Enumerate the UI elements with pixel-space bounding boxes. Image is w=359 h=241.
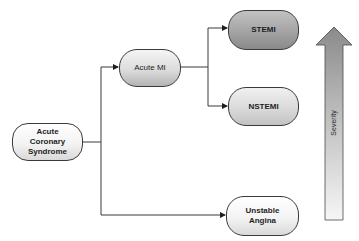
node-stemi: STEMI bbox=[228, 10, 299, 50]
node-nstemi: NSTEMI bbox=[228, 87, 299, 126]
edge-mi-trunk bbox=[180, 28, 208, 106]
node-acute-mi: Acute MI bbox=[119, 49, 181, 87]
node-unstable-angina: Unstable Angina bbox=[226, 196, 299, 236]
acs-line-3: Syndrome bbox=[28, 147, 67, 157]
nstemi-label: NSTEMI bbox=[248, 102, 278, 112]
acute-mi-label: Acute MI bbox=[134, 63, 166, 73]
unstable-angina-line-1: Unstable bbox=[246, 206, 280, 216]
connector-layer bbox=[0, 0, 359, 241]
edge-acs-trunk bbox=[83, 67, 101, 215]
node-acute-coronary-syndrome: Acute Coronary Syndrome bbox=[12, 123, 83, 161]
acs-line-1: Acute bbox=[28, 127, 67, 137]
severity-label: Severity bbox=[329, 103, 339, 143]
acs-line-2: Coronary bbox=[28, 137, 67, 147]
stemi-label: STEMI bbox=[251, 25, 275, 35]
unstable-angina-line-2: Angina bbox=[246, 216, 280, 226]
